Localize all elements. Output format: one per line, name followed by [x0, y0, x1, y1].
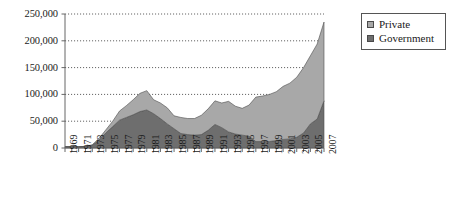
- x-tick-label: 1997: [260, 135, 270, 154]
- x-tick-label: 2001: [287, 135, 297, 154]
- x-tick-label: 1981: [151, 135, 161, 154]
- x-tick-label: 1969: [69, 135, 79, 154]
- x-tick-label: 1973: [96, 135, 106, 154]
- x-tick-label: 1987: [192, 135, 202, 154]
- x-tick-label: 1977: [124, 135, 134, 154]
- legend-label-government: Government: [379, 33, 434, 44]
- x-tick-label: 1989: [205, 135, 215, 154]
- legend-item-private[interactable]: Private: [367, 19, 440, 30]
- x-tick-label: 1991: [219, 135, 229, 154]
- x-tick-label: 1971: [83, 135, 93, 154]
- legend-swatch-government: [367, 35, 374, 42]
- legend-label-private: Private: [379, 19, 410, 30]
- y-axis-tick-marks: [62, 14, 66, 148]
- stacked-area-chart: 250,000200,000150,000100,00050,0000 1969…: [0, 0, 454, 215]
- legend-item-government[interactable]: Government: [367, 33, 440, 44]
- y-tick-label: 150,000: [0, 63, 58, 74]
- y-tick-label: 250,000: [0, 9, 58, 20]
- x-tick-label: 1985: [178, 135, 188, 154]
- chart-legend: Private Government: [361, 13, 446, 50]
- x-tick-label: 1995: [246, 135, 256, 154]
- y-tick-label: 50,000: [0, 116, 58, 127]
- y-tick-label: 0: [0, 143, 58, 154]
- x-tick-label: 1975: [110, 135, 120, 154]
- legend-swatch-private: [367, 21, 374, 28]
- y-tick-label: 100,000: [0, 89, 58, 100]
- x-tick-label: 1983: [164, 135, 174, 154]
- x-tick-label: 1993: [233, 135, 243, 154]
- x-tick-label: 2007: [328, 135, 338, 154]
- x-tick-label: 2005: [314, 135, 324, 154]
- x-tick-label: 1979: [137, 135, 147, 154]
- y-tick-label: 200,000: [0, 36, 58, 47]
- x-tick-label: 2003: [301, 135, 311, 154]
- x-tick-label: 1999: [274, 135, 284, 154]
